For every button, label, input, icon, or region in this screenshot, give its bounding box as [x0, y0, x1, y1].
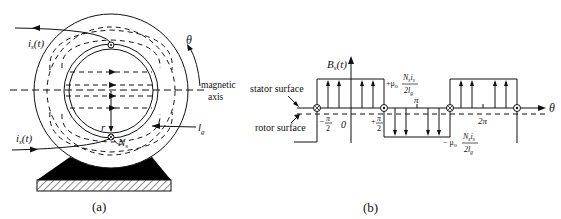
- flux-arrows-down: [395, 108, 439, 134]
- svg-text:Nsis: Nsis: [402, 73, 415, 83]
- current-label-bottom: is(t): [16, 132, 33, 146]
- y-axis-label: Bs(t): [327, 58, 347, 72]
- magnetic-axis-label: magnetic: [201, 80, 236, 90]
- theta-label: θ: [186, 33, 192, 47]
- caption-a: (a): [92, 199, 106, 214]
- current-label-top: is(t): [28, 37, 45, 51]
- stator-surface-label: stator surface: [250, 83, 304, 94]
- rotor-surface-label: rotor surface: [255, 122, 306, 133]
- svg-text:2: 2: [377, 124, 381, 133]
- svg-text:2lg: 2lg: [464, 145, 473, 155]
- svg-text:+: +: [371, 117, 376, 126]
- tick-neg-half-pi: − π 2: [319, 114, 332, 133]
- svg-text:+μo: +μo: [386, 79, 398, 89]
- tick-2pi: 2π: [478, 116, 488, 126]
- origin-label: 0: [341, 119, 346, 130]
- radius-label: r: [101, 121, 106, 133]
- tick-pi: π: [414, 95, 419, 105]
- svg-text:− μo: − μo: [443, 138, 457, 148]
- positive-level-label: +μo Nsis 2lg: [386, 73, 418, 96]
- theta-arrow: [190, 48, 200, 86]
- caption-b: (b): [363, 200, 378, 215]
- x-axis-label: θ: [549, 101, 555, 115]
- panel-a-machine: r is(t) is(t) Ns lg θ magnetic axis (a): [10, 14, 236, 214]
- svg-text:2lg: 2lg: [404, 86, 413, 96]
- flux-density-wave: [317, 79, 517, 143]
- magnetic-axis-label-2: axis: [208, 92, 224, 102]
- base-plate: [37, 180, 171, 191]
- airgap-label: lg: [198, 121, 205, 136]
- panel-b-plot: Bs(t) θ: [250, 56, 555, 215]
- svg-text:π: π: [377, 114, 382, 123]
- tick-pos-half-pi: + π 2: [371, 114, 383, 133]
- svg-text:−: −: [319, 116, 324, 126]
- figure-canvas: r is(t) is(t) Ns lg θ magnetic axis (a) …: [0, 0, 561, 219]
- svg-text:Nsis: Nsis: [462, 132, 475, 142]
- svg-text:π: π: [326, 114, 331, 123]
- svg-text:2: 2: [326, 124, 330, 133]
- negative-level-label: − μo Nsis 2lg: [443, 132, 478, 155]
